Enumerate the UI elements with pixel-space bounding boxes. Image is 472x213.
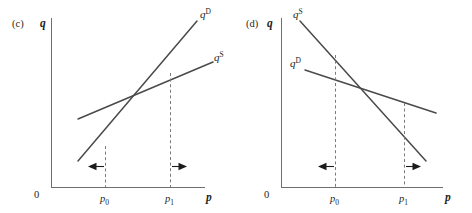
panel-c-tick-label-p1: p1 [164, 193, 174, 207]
panel-d-demand-curve-label: qD [290, 56, 302, 69]
panel-c-demand-curve-label: qD [200, 7, 212, 20]
panel-c-tick1-sub: 1 [170, 198, 174, 207]
panel-d-tick-label-p1: p1 [398, 193, 408, 207]
panel-d-tick0-sub: 0 [335, 198, 339, 207]
panel-c-x-axis-label: p [205, 191, 212, 204]
panel-c-supply-curve-label: qS [214, 50, 224, 63]
panel-c: (c) q 0 p qD qS p0 p1 [0, 0, 236, 213]
panel-d-tick1-sub: 1 [404, 198, 408, 207]
panel-d-tag: (d) [246, 18, 259, 30]
panel-d-arrow-left-icon [318, 163, 334, 170]
panel-c-arrow-left-icon [88, 163, 104, 170]
panel-d-supply-curve [300, 21, 426, 161]
panel-d-x-axis-label: p [444, 191, 451, 204]
panel-d-origin-label: 0 [264, 189, 269, 200]
panel-c-tick0-sub: 0 [105, 198, 109, 207]
panel-d-demand-curve [305, 70, 436, 113]
panel-d-supply-label-sup: S [299, 7, 303, 16]
panel-c-origin-label: 0 [34, 189, 39, 200]
panel-d-tick-label-p0: p0 [329, 193, 339, 207]
panel-c-demand-curve [78, 21, 197, 161]
panel-d-supply-curve-label: qS [293, 7, 303, 20]
panel-c-supply-label-sup: S [220, 50, 224, 59]
panel-d-arrow-right-icon [406, 163, 421, 170]
figure-root: (c) q 0 p qD qS p0 p1 [0, 0, 472, 213]
panel-c-supply-curve [78, 62, 213, 119]
panel-d-demand-label-sup: D [296, 56, 302, 65]
panel-d-y-axis-label: q [267, 17, 273, 30]
panel-d: (d) q 0 p qS qD p0 p1 [236, 0, 472, 213]
panel-c-tick-label-p0: p0 [99, 193, 109, 207]
panel-c-demand-label-sup: D [206, 7, 212, 16]
panel-c-tag: (c) [12, 18, 24, 30]
panel-c-arrow-right-icon [172, 163, 187, 170]
panel-c-y-axis-label: q [40, 17, 46, 30]
